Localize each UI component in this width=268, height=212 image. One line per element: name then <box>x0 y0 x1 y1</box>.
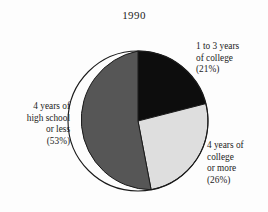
pie-label-high-school-percent: (53%) <box>27 136 70 148</box>
pie-label-high-school-line3: or less <box>27 124 70 136</box>
pie-label-some-college-line1: 1 to 3 years <box>196 41 239 53</box>
pie-label-some-college-percent: (21%) <box>196 64 239 76</box>
pie-label-high-school-line2: high school <box>27 113 70 125</box>
pie-label-some-college: 1 to 3 years of college (21%) <box>196 41 239 76</box>
pie-label-high-school: 4 years of high school or less (53%) <box>27 101 70 147</box>
pie-label-four-year-college-percent: (26%) <box>207 175 244 187</box>
pie-label-four-year-college: 4 years of college or more (26%) <box>207 140 244 186</box>
pie-label-four-year-college-line3: or more <box>207 163 244 175</box>
pie-chart-figure: 1990 1 to 3 years of college (21%) 4 yea… <box>0 0 268 212</box>
pie-label-four-year-college-line1: 4 years of <box>207 140 244 152</box>
pie-label-some-college-line2: of college <box>196 53 239 65</box>
pie-label-high-school-line1: 4 years of <box>27 101 70 113</box>
pie-label-four-year-college-line2: college <box>207 152 244 164</box>
